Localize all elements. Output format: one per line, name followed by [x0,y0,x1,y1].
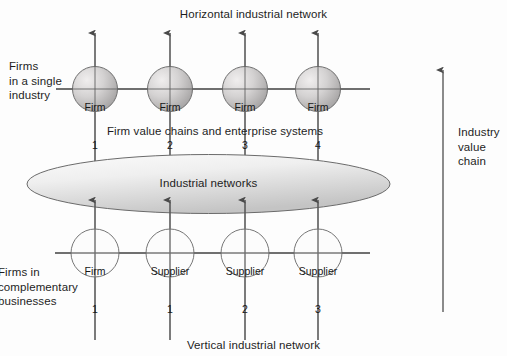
label-industrial-networks: Industrial networks [27,176,390,191]
industrial-network-diagram: Horizontal industrial network Firm value… [0,0,507,356]
top-vertical-arrows [95,33,318,128]
label-firms-in-a-single-industry: Firms in a single industry [9,59,62,103]
label-industry-value-chain: Industry value chain [458,125,500,169]
title-horizontal-industrial-network: Horizontal industrial network [0,7,507,22]
label-firms-in-complementary-businesses: Firms in complementary businesses [0,265,78,309]
bottom-vertical-arrows [95,200,318,340]
label-firm-value-chains: Firm value chains and enterprise systems [0,124,430,139]
title-vertical-industrial-network: Vertical industrial network [0,338,507,353]
